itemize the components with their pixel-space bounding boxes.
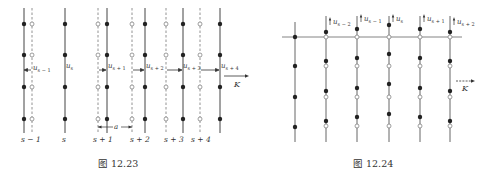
label-u-s+3: us + 3	[183, 62, 201, 71]
plane-labels: s − 1 s s + 1 s + 2 s + 3 s + 4	[21, 135, 211, 144]
wavevector-arrow-k: K	[224, 74, 249, 89]
figure-12-23: us − 1 us us + 1 us + 2 us + 3 us + 4 K …	[21, 8, 249, 169]
diagram-canvas: us − 1 us us + 1 us + 2 us + 3 us + 4 K …	[0, 0, 498, 181]
spacing-label-a: a	[114, 123, 118, 131]
displaced-atoms	[293, 23, 452, 129]
label-u-s: us	[396, 15, 404, 24]
label-u-s-1: us − 1	[364, 15, 382, 24]
equilibrium-atoms	[30, 22, 202, 121]
k-label: K	[461, 84, 469, 93]
plane-label: s	[62, 135, 66, 144]
plane-lines	[295, 16, 450, 142]
label-u-s-2: us − 2	[333, 18, 351, 27]
displaced-atoms	[22, 22, 222, 121]
label-u-s+1: us + 1	[427, 15, 445, 24]
equilibrium-lines	[32, 8, 200, 133]
displaced-lines	[24, 8, 220, 133]
figure-caption: 图 12.23	[98, 158, 138, 169]
wavevector-arrow-k: K	[456, 79, 475, 93]
figure-12-24: us − 2 us − 1 us us + 1 us + 2 K 图 12.24	[282, 14, 475, 169]
displacement-labels: us − 1 us us + 1 us + 2 us + 3 us + 4	[33, 62, 239, 73]
plane-label: s − 1	[21, 135, 41, 144]
plane-label: s + 3	[164, 135, 184, 144]
figure-caption: 图 12.24	[353, 158, 393, 169]
k-label: K	[233, 80, 241, 89]
displacement-labels: us − 2 us − 1 us us + 1 us + 2	[333, 15, 475, 27]
label-u-s+4: us + 4	[221, 62, 239, 71]
spacing-indicator: a	[98, 123, 132, 131]
plane-label: s + 2	[130, 135, 150, 144]
label-u-s: us	[66, 62, 74, 71]
label-u-s+2: us + 2	[146, 62, 164, 71]
plane-label: s + 1	[93, 135, 113, 144]
label-u-s-1: us − 1	[33, 64, 51, 73]
label-u-s+2: us + 2	[457, 18, 475, 27]
plane-label: s + 4	[191, 135, 211, 144]
label-u-s+1: us + 1	[108, 62, 126, 71]
